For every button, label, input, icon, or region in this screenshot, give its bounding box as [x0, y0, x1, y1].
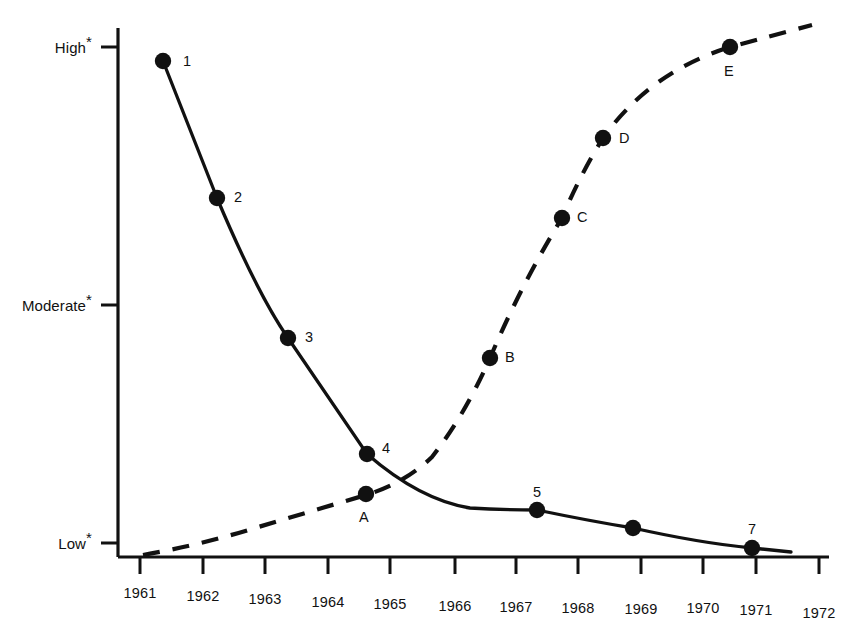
data-point-7	[744, 540, 760, 556]
declining-trend-line	[163, 61, 791, 552]
x-axis-label-1967: 1967	[486, 600, 546, 615]
data-point-label-3: 3	[305, 330, 313, 345]
x-axis-label-1971: 1971	[726, 603, 786, 618]
y-axis-label-high-mark: *	[86, 33, 92, 50]
data-point-2	[209, 190, 225, 206]
data-point-e	[722, 39, 738, 55]
x-axis-label-1969: 1969	[611, 602, 671, 617]
y-axis-ticks	[101, 47, 118, 543]
data-point-1	[155, 53, 171, 69]
data-point-b	[482, 350, 498, 366]
y-axis-label-low-mark: *	[86, 529, 92, 546]
data-point-c	[554, 210, 570, 226]
data-point-d	[595, 130, 611, 146]
data-point-3	[280, 330, 296, 346]
rising-trend-line	[143, 25, 812, 555]
y-axis-label-moderate-text: Moderate	[22, 297, 86, 314]
x-axis-label-1970: 1970	[673, 601, 733, 616]
x-axis-label-1964: 1964	[298, 595, 358, 610]
declining-trend-markers	[155, 53, 760, 556]
x-axis-label-1972: 1972	[789, 606, 849, 621]
data-point-a	[358, 486, 374, 502]
data-point-4	[359, 446, 375, 462]
data-point-label-2: 2	[234, 190, 242, 205]
data-point-6-unlabeled	[625, 520, 641, 536]
y-axis-label-low: Low*	[58, 536, 92, 551]
y-axis-label-moderate-mark: *	[86, 291, 92, 308]
chart-container: High* Moderate* Low* 1961 1962 1963 1964…	[0, 0, 850, 630]
data-point-5	[529, 502, 545, 518]
data-point-label-b: B	[505, 350, 515, 365]
data-point-label-7: 7	[748, 522, 756, 537]
rising-trend-markers	[358, 39, 738, 502]
x-axis-label-1962: 1962	[173, 589, 233, 604]
data-point-label-c: C	[577, 210, 587, 225]
x-axis-label-1965: 1965	[360, 597, 420, 612]
data-point-label-a: A	[359, 510, 369, 525]
x-axis-ticks	[140, 557, 819, 574]
y-axis-label-low-text: Low	[58, 535, 86, 552]
x-axis-label-1963: 1963	[235, 592, 295, 607]
x-axis-label-1961: 1961	[110, 586, 170, 601]
chart-plot-area	[0, 0, 850, 630]
x-axis-label-1966: 1966	[425, 599, 485, 614]
y-axis-label-high: High*	[55, 40, 92, 55]
data-point-label-5: 5	[533, 485, 541, 500]
x-axis-label-1968: 1968	[548, 601, 608, 616]
data-point-label-4: 4	[382, 441, 390, 456]
data-point-label-d: D	[619, 131, 629, 146]
data-point-label-e: E	[724, 64, 734, 79]
data-point-label-1: 1	[183, 54, 191, 69]
y-axis-label-high-text: High	[55, 39, 86, 56]
y-axis-label-moderate: Moderate*	[22, 298, 92, 313]
